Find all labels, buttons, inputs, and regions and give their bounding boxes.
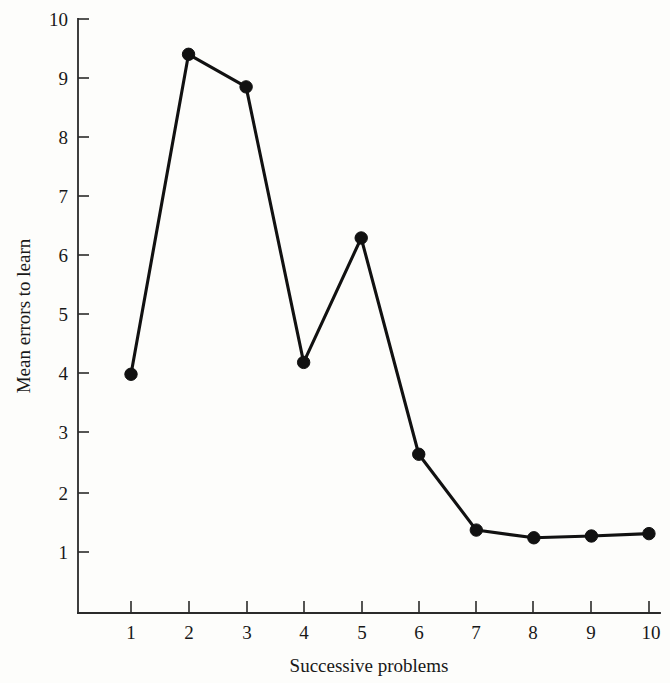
- chart-container: 10 9 8 7 6 5 4 3 2 1 1 2 3: [0, 0, 670, 683]
- data-point-marker: [182, 48, 194, 60]
- y-axis-title: Mean errors to learn: [13, 238, 34, 393]
- y-tick-label: 4: [59, 363, 69, 384]
- data-line-series: [131, 54, 649, 537]
- x-tick-label: 10: [642, 622, 661, 643]
- y-ticks-group: [78, 19, 89, 552]
- axes-group: [78, 19, 660, 613]
- x-tick-label: 2: [184, 622, 194, 643]
- x-tick-label: 9: [586, 622, 596, 643]
- x-tick-label: 6: [414, 622, 424, 643]
- x-ticks-group: [131, 601, 649, 613]
- y-tick-label: 5: [59, 304, 69, 325]
- data-point-marker: [297, 356, 309, 368]
- data-points-group: [125, 48, 655, 544]
- y-tick-label: 7: [59, 186, 69, 207]
- data-point-marker: [643, 527, 655, 539]
- y-tick-label: 3: [59, 422, 69, 443]
- line-chart: 10 9 8 7 6 5 4 3 2 1 1 2 3: [0, 0, 670, 683]
- x-tick-label: 3: [242, 622, 252, 643]
- data-point-marker: [355, 232, 367, 244]
- x-tick-label: 4: [299, 622, 309, 643]
- x-tick-label: 8: [528, 622, 538, 643]
- y-tick-label: 10: [49, 9, 68, 30]
- data-point-marker: [240, 81, 252, 93]
- x-tick-labels-group: 1 2 3 4 5 6 7 8 9 10: [126, 622, 660, 643]
- y-tick-label: 8: [59, 127, 69, 148]
- data-point-marker: [413, 448, 425, 460]
- data-point-marker: [125, 368, 137, 380]
- x-axis-title: Successive problems: [290, 655, 449, 676]
- y-tick-label: 9: [59, 68, 69, 89]
- y-tick-labels-group: 10 9 8 7 6 5 4 3 2 1: [49, 9, 69, 563]
- y-tick-label: 2: [59, 483, 69, 504]
- y-tick-label: 6: [59, 245, 69, 266]
- x-tick-label: 7: [471, 622, 481, 643]
- data-point-marker: [585, 530, 597, 542]
- y-tick-label: 1: [59, 542, 69, 563]
- data-point-marker: [470, 524, 482, 536]
- data-point-marker: [528, 532, 540, 544]
- x-tick-label: 5: [357, 622, 367, 643]
- x-tick-label: 1: [126, 622, 136, 643]
